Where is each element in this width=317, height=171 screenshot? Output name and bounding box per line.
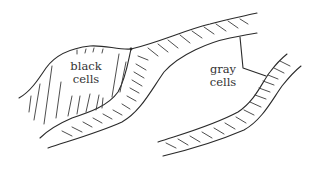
label-black-line2: cells <box>64 73 108 86</box>
gray-cells-leader <box>240 37 266 76</box>
cells-diagram: black cells gray cells <box>0 0 317 171</box>
label-gray-line2: cells <box>203 76 243 89</box>
label-gray-cells: gray cells <box>203 63 243 89</box>
label-black-cells: black cells <box>64 60 108 86</box>
diagram-drawing <box>0 0 317 171</box>
